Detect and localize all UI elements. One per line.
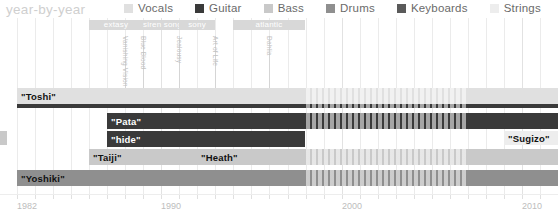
legend-swatch-icon <box>124 4 133 13</box>
legend-item-guitar[interactable]: Guitar <box>195 2 242 14</box>
legend-swatch-icon <box>397 4 406 13</box>
legend-swatch-icon <box>264 4 273 13</box>
axis-tick <box>251 195 252 199</box>
hiatus-hatch <box>306 149 468 165</box>
axis-tick <box>215 195 216 199</box>
legend-label: Strings <box>504 2 541 14</box>
member-name-label: "Heath" <box>201 152 238 163</box>
member-name-label: "Pata" <box>111 116 141 127</box>
axis-tick <box>197 195 198 199</box>
member-bars: "Toshi""Pata""hide""Taiji""Heath""Yoshik… <box>0 18 558 195</box>
axis-tick <box>288 195 289 199</box>
member-bar: "Sugizo" <box>504 131 558 145</box>
axis-tick <box>233 195 234 199</box>
legend-item-keyboards[interactable]: Keyboards <box>397 2 468 14</box>
x-axis: 1982199020002010 <box>0 195 558 219</box>
axis-tick <box>432 195 433 199</box>
axis-tick <box>342 195 343 199</box>
axis-tick <box>540 195 541 199</box>
legend-swatch-icon <box>195 4 204 13</box>
legend-swatch-icon <box>326 4 335 13</box>
legend-item-strings[interactable]: Strings <box>490 2 541 14</box>
axis-tick <box>107 195 108 199</box>
axis-tick <box>324 195 325 199</box>
hiatus-hatch <box>306 170 468 186</box>
member-bar-substrip <box>17 104 558 108</box>
legend-item-drums[interactable]: Drums <box>326 2 375 14</box>
axis-tick <box>468 195 469 199</box>
member-bar: "hide" <box>107 131 305 147</box>
scroll-edge-marker <box>0 131 7 145</box>
axis-tick <box>17 195 18 199</box>
axis-tick <box>143 195 144 199</box>
member-bar: "Toshi" <box>17 88 558 104</box>
legend-label: Bass <box>278 2 304 14</box>
legend-label: Guitar <box>209 2 242 14</box>
hiatus-hatch <box>306 113 468 129</box>
axis-tick <box>486 195 487 199</box>
member-bar: "Yoshiki" <box>17 170 558 186</box>
axis-tick <box>504 195 505 199</box>
legend-swatch-icon <box>490 4 499 13</box>
member-name-label: "Yoshiki" <box>21 173 65 184</box>
chart-title: year-by-year <box>6 2 85 17</box>
hiatus-hatch <box>306 88 468 104</box>
legend-item-vocals[interactable]: Vocals <box>124 2 173 14</box>
axis-tick <box>522 195 523 199</box>
plot-area: extasysiren songsonyatlanticVanishing Vi… <box>0 18 558 195</box>
axis-tick <box>396 195 397 199</box>
member-name-label: "Toshi" <box>21 91 56 102</box>
axis-tick-label: 1990 <box>161 201 181 211</box>
member-name-label: "Sugizo" <box>508 133 550 144</box>
member-name-label: "Taiji" <box>93 152 122 163</box>
member-name-label: "hide" <box>111 134 141 145</box>
axis-tick <box>378 195 379 199</box>
member-bar: "Taiji" <box>89 149 197 165</box>
axis-tick <box>53 195 54 199</box>
legend: VocalsGuitarBassDrumsKeyboardsStrings <box>124 2 541 14</box>
hiatus-hatch <box>306 104 468 108</box>
axis-tick <box>179 195 180 199</box>
axis-tick <box>125 195 126 199</box>
axis-tick-label: 1982 <box>17 201 37 211</box>
axis-tick <box>89 195 90 199</box>
axis-tick-label: 2000 <box>342 201 362 211</box>
axis-tick <box>414 195 415 199</box>
legend-label: Vocals <box>138 2 173 14</box>
year-by-year-timeline-chart: year-by-year VocalsGuitarBassDrumsKeyboa… <box>0 0 558 219</box>
legend-label: Drums <box>340 2 375 14</box>
axis-tick <box>71 195 72 199</box>
legend-label: Keyboards <box>411 2 468 14</box>
axis-tick <box>269 195 270 199</box>
axis-tick <box>161 195 162 199</box>
legend-item-bass[interactable]: Bass <box>264 2 304 14</box>
axis-tick-label: 2010 <box>522 201 542 211</box>
axis-tick <box>306 195 307 199</box>
axis-tick <box>450 195 451 199</box>
axis-tick <box>360 195 361 199</box>
axis-tick <box>35 195 36 199</box>
